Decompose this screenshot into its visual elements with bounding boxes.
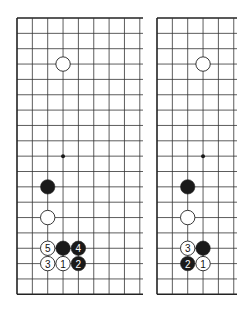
black-stone: 2 bbox=[71, 256, 85, 270]
white-stone bbox=[181, 210, 195, 224]
move-number: 2 bbox=[185, 259, 191, 270]
move-number: 4 bbox=[76, 243, 82, 254]
move-number: 3 bbox=[185, 243, 191, 254]
black-stone: 2 bbox=[181, 256, 195, 270]
white-stone bbox=[196, 57, 210, 71]
black-stone bbox=[196, 241, 210, 255]
white-stone: 1 bbox=[196, 256, 210, 270]
go-diagrams: 54312321 bbox=[0, 0, 237, 321]
white-stone bbox=[41, 210, 55, 224]
move-number: 2 bbox=[76, 259, 82, 270]
white-stone: 3 bbox=[181, 241, 195, 255]
go-board-right: 321 bbox=[157, 18, 237, 294]
move-number: 3 bbox=[45, 259, 51, 270]
white-stone: 3 bbox=[41, 256, 55, 270]
white-stone bbox=[56, 57, 70, 71]
black-stone bbox=[41, 180, 55, 194]
move-number: 1 bbox=[60, 259, 66, 270]
move-number: 1 bbox=[200, 259, 206, 270]
move-number: 5 bbox=[45, 243, 51, 254]
hoshi-point bbox=[61, 154, 65, 158]
go-board-left: 54312 bbox=[17, 18, 143, 294]
white-stone: 5 bbox=[41, 241, 55, 255]
white-stone: 1 bbox=[56, 256, 70, 270]
black-stone bbox=[181, 180, 195, 194]
black-stone: 4 bbox=[71, 241, 85, 255]
black-stone bbox=[56, 241, 70, 255]
hoshi-point bbox=[201, 154, 205, 158]
